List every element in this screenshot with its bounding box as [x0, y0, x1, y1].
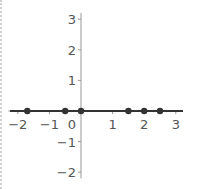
- x-tick-label: 3: [172, 117, 180, 132]
- x-tick-label: −1: [40, 117, 59, 132]
- x-tick-label: 0: [68, 117, 76, 132]
- data-point: [62, 108, 68, 114]
- x-tick-label: 1: [108, 117, 116, 132]
- tick-labels: −2−10123−2−1123: [8, 12, 180, 180]
- ticks: [18, 19, 176, 172]
- y-tick-label: −2: [57, 165, 76, 180]
- data-point: [78, 108, 84, 114]
- y-tick-label: 1: [68, 73, 76, 88]
- y-tick-label: 3: [68, 12, 76, 27]
- data-point: [141, 108, 147, 114]
- x-tick-label: 2: [140, 117, 148, 132]
- y-tick-label: −1: [57, 135, 76, 150]
- x-tick-label: −2: [8, 117, 27, 132]
- data-point: [157, 108, 163, 114]
- data-point: [125, 108, 131, 114]
- data-point: [24, 108, 30, 114]
- y-tick-label: 2: [68, 43, 76, 58]
- number-line-plot: −2−10123−2−1123: [0, 0, 198, 189]
- axes: [8, 13, 182, 178]
